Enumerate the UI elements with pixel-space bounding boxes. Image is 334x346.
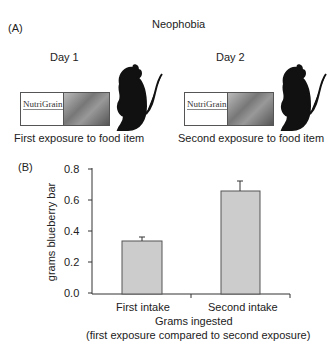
x-axis-sublabel: (first exposure compared to second expos…: [86, 329, 310, 341]
figure: (A) Neophobia Day 1 Day 2 NutriGrain Fir…: [0, 0, 334, 346]
y-tick: 0.0: [64, 287, 79, 299]
x-tick: Second intake: [208, 301, 278, 313]
bar-chart: [0, 0, 334, 346]
y-tick: 0.2: [64, 256, 79, 268]
x-axis-label: Grams ingested: [155, 315, 233, 327]
x-tick: First intake: [116, 301, 170, 313]
y-tick: 0.8: [64, 163, 79, 175]
y-tick: 0.6: [64, 194, 79, 206]
y-tick: 0.4: [64, 225, 79, 237]
y-axis-label: grams blueberry bar: [45, 177, 57, 287]
